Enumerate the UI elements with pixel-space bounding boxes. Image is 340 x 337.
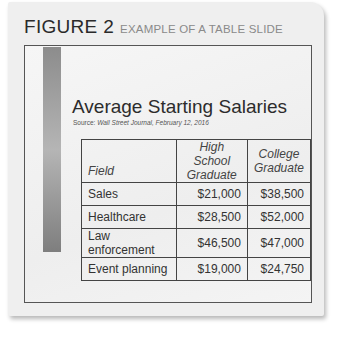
table-row: Law enforcement $46,500 $47,000 [82,229,311,258]
slide-frame: Average Starting Salaries Source: Wall S… [24,45,312,303]
salary-table: Field High School Graduate College Gradu… [81,139,311,281]
header-high-school: High School Graduate [176,140,247,183]
cell-field: Sales [82,183,177,206]
cell-college: $47,000 [247,229,310,258]
header-high-school-line2: Graduate [183,168,241,182]
cell-high-school: $46,500 [176,229,247,258]
cell-field: Healthcare [82,206,177,229]
figure-card: FIGURE 2EXAMPLE OF A TABLE SLIDE Average… [8,2,324,316]
cell-college: $24,750 [247,258,310,281]
header-field: Field [82,140,177,183]
figure-number: FIGURE 2 [24,16,114,37]
header-high-school-line1: High School [183,140,241,168]
figure-header: FIGURE 2EXAMPLE OF A TABLE SLIDE [24,16,283,38]
table-row: Sales $21,000 $38,500 [82,183,311,206]
table-row: Healthcare $28,500 $52,000 [82,206,311,229]
table-row: Event planning $19,000 $24,750 [82,258,311,281]
source-citation: Wall Street Journal, February 12, 2016 [97,119,209,126]
header-college-line2: Graduate [254,161,304,175]
cell-field: Law enforcement [82,229,177,258]
table-header-row: Field High School Graduate College Gradu… [82,140,311,183]
slide-source: Source: Wall Street Journal, February 12… [73,119,209,126]
cell-high-school: $19,000 [176,258,247,281]
cell-high-school: $28,500 [176,206,247,229]
slide-title: Average Starting Salaries [72,96,287,118]
header-college: College Graduate [247,140,310,183]
cell-college: $52,000 [247,206,310,229]
source-prefix: Source: [73,119,97,126]
header-college-line1: College [254,147,304,161]
figure-caption: EXAMPLE OF A TABLE SLIDE [120,23,283,35]
cell-high-school: $21,000 [176,183,247,206]
accent-gradient-bar [43,47,61,252]
cell-field: Event planning [82,258,177,281]
cell-college: $38,500 [247,183,310,206]
